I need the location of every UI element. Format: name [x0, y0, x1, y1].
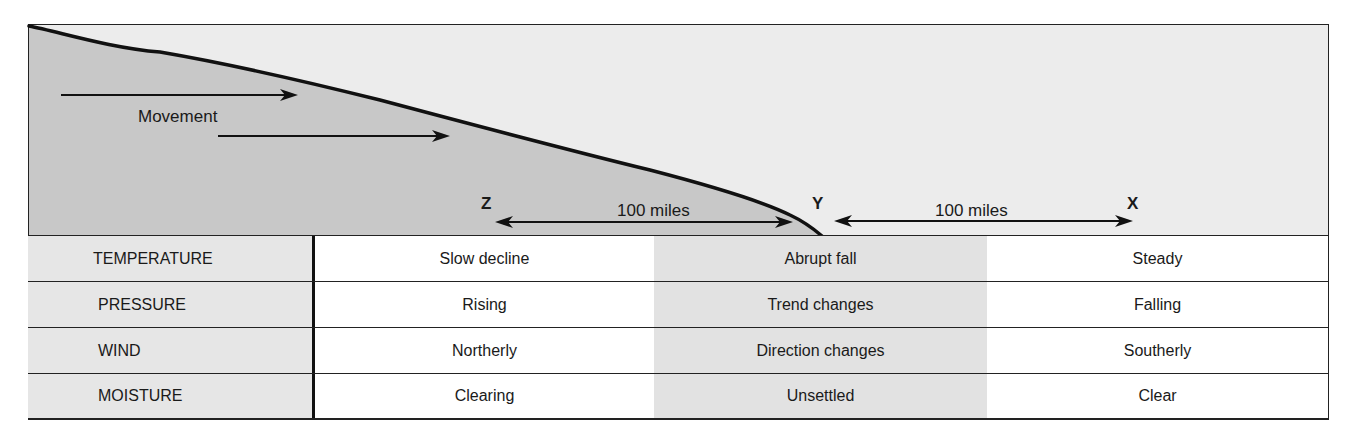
cell-x-side: Steady — [987, 236, 1329, 281]
cell-x-side: Southerly — [987, 328, 1329, 373]
cell-x-side: Clear — [987, 374, 1329, 418]
table-row-wind: WIND Northerly Direction changes Souther… — [28, 327, 1329, 373]
cell-z-side: Rising — [315, 282, 654, 327]
distance-z-y-label: 100 miles — [617, 201, 690, 221]
table-row-pressure: PRESSURE Rising Trend changes Falling — [28, 281, 1329, 327]
point-z-label: Z — [481, 194, 491, 214]
cell-at-front: Trend changes — [654, 282, 987, 327]
cold-air-mass — [29, 26, 822, 236]
distance-y-x-label: 100 miles — [935, 201, 1008, 221]
row-header: MOISTURE — [28, 374, 315, 418]
cell-x-side: Falling — [987, 282, 1329, 327]
row-header: WIND — [28, 328, 315, 373]
cell-at-front: Direction changes — [654, 328, 987, 373]
row-header: PRESSURE — [28, 282, 315, 327]
table-row-moisture: MOISTURE Clearing Unsettled Clear — [28, 373, 1329, 419]
row-header: TEMPERATURE — [28, 236, 315, 281]
weather-conditions-table: TEMPERATURE Slow decline Abrupt fall Ste… — [28, 235, 1329, 420]
point-x-label: X — [1127, 194, 1138, 214]
cell-at-front: Abrupt fall — [654, 236, 987, 281]
cell-z-side: Northerly — [315, 328, 654, 373]
cell-z-side: Slow decline — [315, 236, 654, 281]
cell-z-side: Clearing — [315, 374, 654, 418]
point-y-label: Y — [812, 194, 823, 214]
cell-at-front: Unsettled — [654, 374, 987, 418]
movement-label: Movement — [138, 107, 217, 127]
table-row-temperature: TEMPERATURE Slow decline Abrupt fall Ste… — [28, 235, 1329, 281]
